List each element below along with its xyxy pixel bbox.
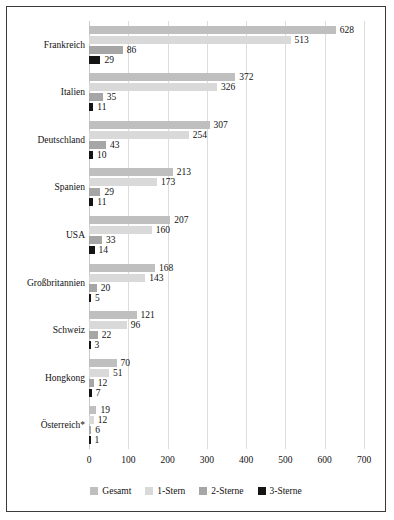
bar-row: 160 bbox=[89, 226, 364, 234]
bar-row: 7 bbox=[89, 389, 364, 397]
category-label-7: Hongkong bbox=[7, 372, 85, 384]
bar-row: 33 bbox=[89, 236, 364, 244]
x-tick-300: 300 bbox=[200, 453, 214, 467]
bar-row: 29 bbox=[89, 56, 364, 64]
bar-row: 43 bbox=[89, 141, 364, 149]
bar-value-label: 1 bbox=[91, 433, 100, 447]
bar-row: 11 bbox=[89, 103, 364, 111]
bar-row: 14 bbox=[89, 246, 364, 254]
x-tick-400: 400 bbox=[239, 453, 253, 467]
category-label-5: Großbritannien bbox=[7, 277, 85, 289]
bar-value-label: 96 bbox=[127, 318, 141, 332]
category-label-6: Schweiz bbox=[7, 324, 85, 336]
bar-value-label: 372 bbox=[235, 70, 253, 84]
legend-item-gesamt[interactable]: Gesamt bbox=[90, 485, 131, 497]
bar-value-label: 5 bbox=[91, 291, 100, 305]
bar-row: 3 bbox=[89, 341, 364, 349]
x-tick-700: 700 bbox=[357, 453, 371, 467]
x-tick-600: 600 bbox=[318, 453, 332, 467]
bar-row: 20 bbox=[89, 284, 364, 292]
bar-row: 213 bbox=[89, 168, 364, 176]
bar-value-label: 11 bbox=[93, 195, 106, 209]
bar-group: 191261 bbox=[89, 406, 364, 446]
bar-row: 168 bbox=[89, 264, 364, 272]
bar-3-sterne[interactable] bbox=[89, 56, 100, 64]
bar-row: 11 bbox=[89, 198, 364, 206]
category-label-3: Spanien bbox=[7, 181, 85, 193]
bar-value-label: 207 bbox=[170, 213, 188, 227]
bar-value-label: 143 bbox=[145, 271, 163, 285]
bar-1-stern[interactable] bbox=[89, 131, 189, 139]
bar-row: 96 bbox=[89, 321, 364, 329]
bar-row: 6 bbox=[89, 426, 364, 434]
legend-label: 2-Sterne bbox=[211, 485, 243, 497]
category-label-8: Österreich* bbox=[7, 419, 85, 431]
gridline-700 bbox=[364, 21, 365, 449]
bar-1-stern[interactable] bbox=[89, 178, 157, 186]
bar-gesamt[interactable] bbox=[89, 73, 235, 81]
legend-item-2-sterne[interactable]: 2-Sterne bbox=[199, 485, 243, 497]
bar-value-label: 160 bbox=[152, 223, 170, 237]
bar-row: 5 bbox=[89, 294, 364, 302]
bar-group: 2131732911 bbox=[89, 168, 364, 208]
bar-row: 12 bbox=[89, 379, 364, 387]
bar-row: 19 bbox=[89, 406, 364, 414]
bar-row: 173 bbox=[89, 178, 364, 186]
x-axis-tick-labels: 0100200300400500600700 bbox=[89, 453, 364, 471]
bar-value-label: 14 bbox=[95, 243, 109, 257]
chart-frame: FrankreichItalienDeutschlandSpanienUSAGr… bbox=[6, 6, 386, 512]
legend-swatch-icon bbox=[90, 487, 98, 495]
bar-value-label: 7 bbox=[92, 386, 101, 400]
bar-row: 22 bbox=[89, 331, 364, 339]
bar-group: 3723263511 bbox=[89, 73, 364, 113]
bar-value-label: 10 bbox=[93, 148, 107, 162]
bar-group: 12196223 bbox=[89, 311, 364, 351]
bar-value-label: 326 bbox=[217, 80, 235, 94]
bar-value-label: 213 bbox=[173, 165, 191, 179]
category-label-2: Deutschland bbox=[7, 134, 85, 146]
bar-group: 7051127 bbox=[89, 359, 364, 399]
legend-label: 3-Sterne bbox=[270, 485, 302, 497]
bar-value-label: 173 bbox=[157, 175, 175, 189]
bar-row: 29 bbox=[89, 188, 364, 196]
bar-value-label: 513 bbox=[291, 33, 309, 47]
bar-value-label: 307 bbox=[210, 118, 228, 132]
category-label-0: Frankreich bbox=[7, 39, 85, 51]
bar-value-label: 51 bbox=[109, 366, 123, 380]
bar-row: 307 bbox=[89, 121, 364, 129]
plot-area: 6285138629372326351130725443102131732911… bbox=[89, 21, 364, 449]
legend-label: Gesamt bbox=[102, 485, 131, 497]
bar-value-label: 86 bbox=[123, 43, 137, 57]
bar-value-label: 43 bbox=[106, 138, 120, 152]
category-axis-labels: FrankreichItalienDeutschlandSpanienUSAGr… bbox=[7, 21, 85, 449]
legend-swatch-icon bbox=[145, 487, 153, 495]
bar-row: 1 bbox=[89, 436, 364, 444]
bar-value-label: 29 bbox=[100, 53, 114, 67]
bar-row: 51 bbox=[89, 369, 364, 377]
legend-item-1-stern[interactable]: 1-Stern bbox=[145, 485, 185, 497]
bar-row: 326 bbox=[89, 83, 364, 91]
x-tick-100: 100 bbox=[121, 453, 135, 467]
bar-1-stern[interactable] bbox=[89, 226, 152, 234]
bar-group: 6285138629 bbox=[89, 26, 364, 66]
bar-row: 628 bbox=[89, 26, 364, 34]
bar-row: 10 bbox=[89, 151, 364, 159]
bar-group: 3072544310 bbox=[89, 121, 364, 161]
bar-value-label: 254 bbox=[189, 128, 207, 142]
bar-row: 35 bbox=[89, 93, 364, 101]
bar-value-label: 3 bbox=[91, 338, 100, 352]
bar-row: 70 bbox=[89, 359, 364, 367]
bar-row: 143 bbox=[89, 274, 364, 282]
legend-swatch-icon bbox=[199, 487, 207, 495]
chart-legend: Gesamt1-Stern2-Sterne3-Sterne bbox=[7, 485, 385, 497]
category-label-4: USA bbox=[7, 229, 85, 241]
legend-swatch-icon bbox=[258, 487, 266, 495]
x-tick-200: 200 bbox=[160, 453, 174, 467]
bar-value-label: 22 bbox=[98, 328, 112, 342]
legend-label: 1-Stern bbox=[157, 485, 185, 497]
bar-row: 207 bbox=[89, 216, 364, 224]
bar-value-label: 11 bbox=[93, 100, 106, 114]
bar-group: 168143205 bbox=[89, 264, 364, 304]
legend-item-3-sterne[interactable]: 3-Sterne bbox=[258, 485, 302, 497]
bar-1-stern[interactable] bbox=[89, 36, 291, 44]
